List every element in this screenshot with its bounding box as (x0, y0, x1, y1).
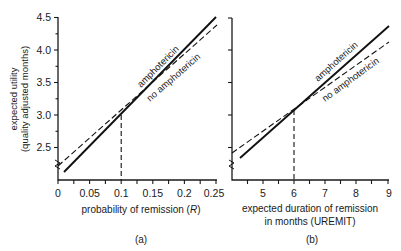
svg-text:4.5: 4.5 (36, 11, 51, 23)
svg-text:0: 0 (55, 187, 61, 199)
panel-b-tag: (b) (306, 234, 318, 245)
svg-text:0.15: 0.15 (143, 187, 164, 199)
svg-text:0.2: 0.2 (177, 187, 192, 199)
svg-text:0.05: 0.05 (79, 187, 100, 199)
panel-a-x-tick-labels: 0 0.05 0.1 0.15 0.2 0.25 (55, 187, 224, 199)
svg-text:0.25: 0.25 (204, 187, 225, 199)
panel-a-x-axis-title: probability of remission (R) (82, 204, 201, 215)
panel-b: 5 6 7 8 9 expected duration of remission… (228, 18, 392, 245)
panel-a: 4.5 4.0 3.5 3.0 2.5 0 0.05 0.1 0.15 0.2 (36, 11, 224, 245)
y-axis-title-line2: (quality adjusted months) (19, 46, 30, 152)
panel-a-y-tick-labels: 4.5 4.0 3.5 3.0 2.5 (36, 11, 51, 153)
svg-text:2.5: 2.5 (36, 141, 51, 153)
svg-text:9: 9 (386, 187, 392, 199)
panel-b-x-axis-title-line2: in months (UREMIT) (264, 216, 355, 227)
svg-text:3.0: 3.0 (36, 109, 51, 121)
svg-text:0.1: 0.1 (114, 187, 129, 199)
panel-a-tag: (a) (135, 234, 147, 245)
svg-text:7: 7 (322, 187, 328, 199)
panel-b-axes (232, 18, 389, 180)
svg-text:4.0: 4.0 (36, 44, 51, 56)
y-axis-title-line1: expected utility (8, 67, 19, 130)
svg-text:8: 8 (353, 187, 359, 199)
panel-b-line-amphotericin (240, 26, 389, 158)
panel-b-line-no-amphotericin (232, 42, 389, 153)
axis-break-icon (229, 160, 234, 169)
figure: expected utility (quality adjusted month… (0, 0, 401, 251)
panel-b-x-tick-labels: 5 6 7 8 9 (260, 187, 392, 199)
panel-a-line-no-amphotericin (58, 25, 217, 166)
panel-a-line-amphotericin (64, 17, 216, 172)
panel-b-x-axis-title-line1: expected duration of remission (242, 203, 378, 214)
svg-text:3.5: 3.5 (36, 76, 51, 88)
svg-text:5: 5 (260, 187, 266, 199)
y-axis-title: expected utility (quality adjusted month… (8, 46, 30, 152)
svg-text:6: 6 (291, 187, 297, 199)
